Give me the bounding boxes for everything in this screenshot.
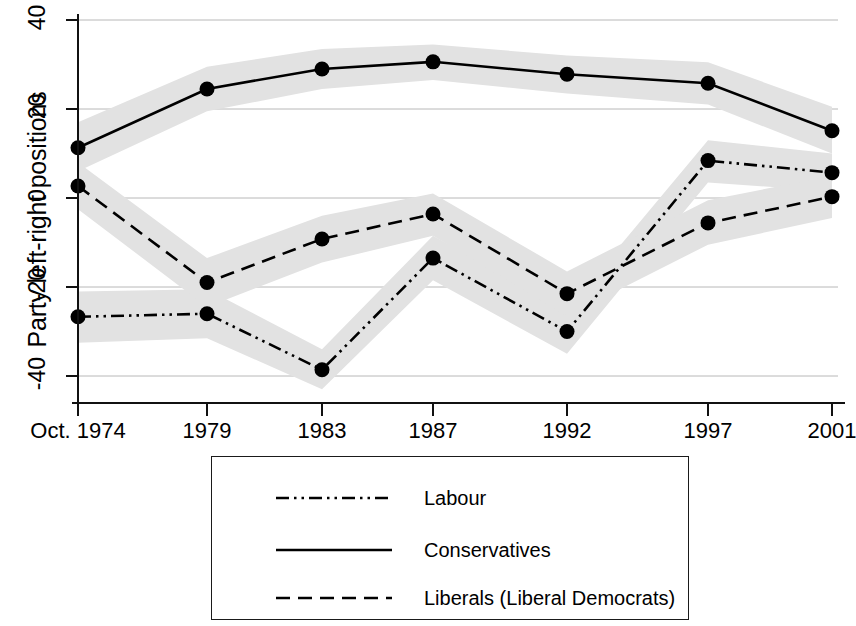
data-point-labour-1997 (701, 153, 716, 168)
x-tick-label-Oct1974: Oct. 1974 (30, 418, 125, 444)
y-tick-label-40: 40 (24, 0, 51, 41)
chart-legend: LabourConservativesLiberals (Liberal Dem… (211, 456, 689, 620)
data-point-liberals-2001 (825, 189, 840, 204)
data-point-liberals-1979 (200, 275, 215, 290)
data-point-conservatives-1983 (315, 61, 330, 76)
data-point-conservatives-2001 (825, 123, 840, 138)
data-point-liberals-1983 (315, 231, 330, 246)
y-tick-label--40: -40 (24, 351, 51, 397)
data-point-labour-1987 (426, 251, 441, 266)
data-point-labour-2001 (825, 165, 840, 180)
legend-label-conservatives: Conservatives (424, 539, 551, 562)
data-point-labour-1979 (200, 306, 215, 321)
legend-item-labour: Labour (212, 481, 688, 515)
data-point-liberals-1992 (560, 286, 575, 301)
legend-item-liberals: Liberals (Liberal Democrats) (212, 581, 688, 615)
x-tick-label-1992: 1992 (543, 418, 592, 444)
legend-label-labour: Labour (424, 487, 486, 510)
data-point-labour-1992 (560, 324, 575, 339)
y-tick-label-20: 20 (24, 84, 51, 130)
data-point-labour-1983 (315, 362, 330, 377)
legend-label-liberals: Liberals (Liberal Democrats) (424, 587, 675, 610)
y-tick-label--20: -20 (24, 262, 51, 308)
data-point-conservatives-1979 (200, 81, 215, 96)
x-tick-label-1997: 1997 (684, 418, 733, 444)
data-point-conservatives-1987 (426, 54, 441, 69)
x-tick-label-1983: 1983 (298, 418, 347, 444)
confidence-band-liberals (78, 162, 832, 316)
data-point-liberals-1997 (701, 215, 716, 230)
data-point-conservatives-1997 (701, 76, 716, 91)
x-tick-label-1987: 1987 (409, 418, 458, 444)
x-tick-label-1979: 1979 (183, 418, 232, 444)
legend-item-conservatives: Conservatives (212, 533, 688, 567)
x-tick-label-2001: 2001 (808, 418, 856, 444)
data-point-conservatives-1992 (560, 67, 575, 82)
data-point-liberals-1987 (426, 207, 441, 222)
y-tick-label-0: 0 (24, 173, 51, 219)
